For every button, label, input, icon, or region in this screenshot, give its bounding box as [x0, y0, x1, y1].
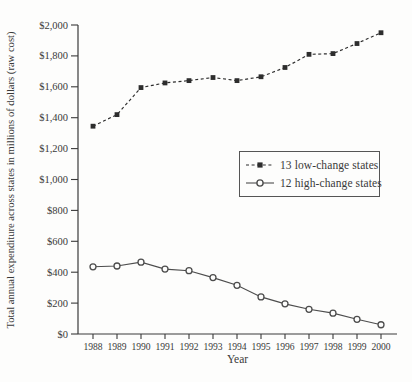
- marker-filled-square: [379, 30, 384, 35]
- marker-open-circle: [354, 316, 360, 322]
- marker-open-circle: [186, 268, 192, 274]
- x-tick-label: 1990: [131, 341, 150, 352]
- y-tick-label: $1,600: [39, 81, 68, 92]
- marker-open-circle: [282, 301, 288, 307]
- legend-label-high-change: 12 high-change states: [280, 177, 382, 189]
- marker-open-circle: [378, 322, 384, 328]
- x-tick-label: 1991: [155, 341, 174, 352]
- dashed-line-filled-square-icon: [245, 159, 275, 171]
- marker-filled-square: [355, 41, 360, 46]
- y-tick-label: $1,200: [39, 143, 68, 154]
- x-tick-label: 2000: [371, 341, 390, 352]
- solid-line-open-circle-icon: [245, 177, 275, 189]
- y-tick-label: $1,000: [39, 174, 68, 185]
- legend: 13 low-change states 12 high-change stat…: [239, 151, 380, 197]
- marker-filled-square: [307, 52, 312, 57]
- y-tick-label: $800: [47, 205, 68, 216]
- x-tick-label: 1993: [203, 341, 222, 352]
- x-tick-label: 1999: [347, 341, 366, 352]
- x-axis-title: Year: [227, 353, 248, 365]
- x-tick-label: 1994: [227, 341, 246, 352]
- marker-open-circle: [210, 275, 216, 281]
- marker-open-circle: [258, 294, 264, 300]
- x-tick-label: 1995: [251, 341, 270, 352]
- x-tick-label: 1988: [83, 341, 102, 352]
- y-tick-label: $200: [47, 298, 68, 309]
- y-tick-label: $1,400: [39, 112, 68, 123]
- x-tick-label: 1998: [323, 341, 342, 352]
- marker-open-circle: [306, 306, 312, 312]
- x-tick-label: 1996: [275, 341, 294, 352]
- legend-item-high-change: 12 high-change states: [245, 176, 375, 191]
- marker-filled-square: [163, 81, 168, 86]
- legend-label-low-change: 13 low-change states: [280, 159, 378, 171]
- y-tick-label: $600: [47, 236, 68, 247]
- marker-filled-square: [283, 65, 288, 70]
- legend-item-low-change: 13 low-change states: [245, 158, 375, 173]
- expenditure-figure: $0$200$400$600$800$1,000$1,200$1,400$1,6…: [0, 0, 412, 382]
- series-line-high-change: [93, 262, 381, 325]
- marker-open-circle: [162, 266, 168, 272]
- marker-filled-square: [211, 75, 216, 80]
- marker-open-circle: [90, 264, 96, 270]
- marker-filled-square: [259, 74, 264, 79]
- marker-filled-square: [331, 51, 336, 56]
- marker-open-circle: [234, 282, 240, 288]
- marker-filled-square: [91, 124, 96, 129]
- marker-filled-square: [235, 78, 240, 83]
- x-tick-label: 1992: [179, 341, 198, 352]
- y-tick-label: $0: [58, 329, 69, 340]
- marker-filled-square: [115, 112, 120, 117]
- marker-filled-square: [139, 85, 144, 90]
- marker-open-circle: [138, 259, 144, 265]
- marker-open-circle: [330, 310, 336, 316]
- y-tick-label: $400: [47, 267, 68, 278]
- y-tick-label: $2,000: [39, 20, 68, 31]
- marker-filled-square: [187, 78, 192, 83]
- marker-open-circle: [114, 263, 120, 269]
- x-tick-label: 1997: [299, 341, 318, 352]
- y-tick-label: $1,800: [39, 50, 68, 61]
- y-axis-title: Total annual expenditure across states i…: [5, 31, 17, 328]
- x-tick-label: 1989: [107, 341, 126, 352]
